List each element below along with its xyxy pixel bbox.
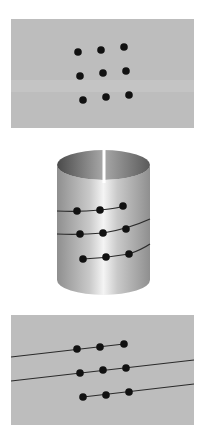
dot-marker	[122, 225, 130, 233]
dot-marker	[74, 48, 82, 56]
dot-marker	[79, 255, 87, 263]
dot-marker	[96, 343, 104, 351]
dot-marker	[73, 345, 81, 353]
light-band	[11, 80, 194, 92]
dot-marker	[119, 202, 127, 210]
dot-marker	[79, 393, 87, 401]
dot-marker	[97, 46, 105, 54]
dot-marker	[76, 230, 84, 238]
cylinder-slit	[103, 150, 106, 183]
dot-marker	[125, 388, 133, 396]
dot-marker	[122, 364, 130, 372]
flat-sheet-panel	[11, 19, 194, 128]
figure-canvas	[0, 0, 207, 448]
dot-marker	[102, 253, 110, 261]
dot-marker	[73, 207, 81, 215]
unrolled-sheet-panel	[11, 315, 194, 425]
dot-marker	[122, 67, 130, 75]
dot-marker	[99, 69, 107, 77]
dot-marker	[99, 366, 107, 374]
dot-marker	[79, 96, 87, 104]
dot-marker	[99, 229, 107, 237]
dot-marker	[102, 391, 110, 399]
dot-marker	[102, 93, 110, 101]
dot-marker	[125, 250, 133, 258]
dot-marker	[125, 91, 133, 99]
dot-marker	[96, 206, 104, 214]
dot-marker	[120, 43, 128, 51]
diagram-svg	[0, 0, 207, 448]
dot-marker	[76, 369, 84, 377]
dot-marker	[120, 340, 128, 348]
cylinder-figure	[57, 150, 150, 295]
dot-marker	[76, 72, 84, 80]
